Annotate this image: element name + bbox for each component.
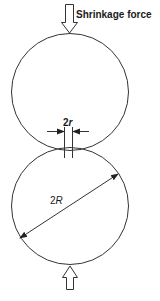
diameter-arrow (69, 174, 118, 206)
bottom-sphere (12, 148, 129, 265)
diagram-canvas (0, 0, 160, 301)
diameter-arrow-back (20, 206, 69, 238)
force-arrow-up-icon (63, 266, 78, 290)
neck-radius-label: 2r (63, 117, 72, 128)
shrinkage-force-label: Shrinkage force (76, 9, 152, 20)
top-sphere (12, 34, 129, 151)
diameter-var: R (56, 195, 63, 206)
diameter-label: 2R (50, 195, 63, 206)
neck-var: r (69, 117, 73, 128)
